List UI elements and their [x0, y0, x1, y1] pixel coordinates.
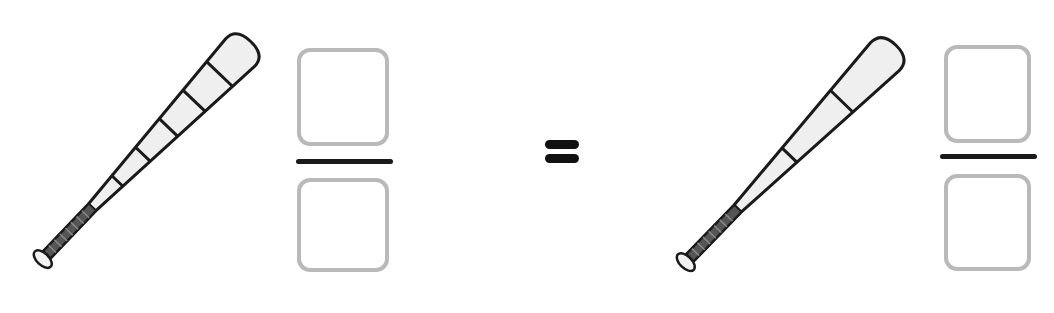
right-baseball-bat-icon — [0, 0, 1054, 313]
right-numerator-box[interactable] — [944, 45, 1031, 143]
right-fraction-line — [940, 154, 1037, 159]
right-denominator-box[interactable] — [944, 174, 1031, 271]
